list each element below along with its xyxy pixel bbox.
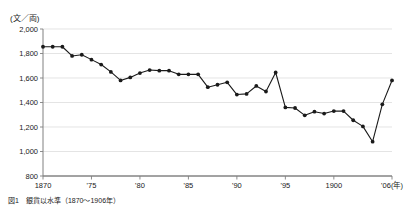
data-point-1905 [380, 102, 384, 106]
data-point-1870 [41, 45, 45, 49]
y-tick-label-1600: 1,600 [19, 74, 38, 83]
gridlines [43, 29, 392, 176]
data-point-1899 [322, 112, 326, 116]
data-point-1879 [128, 75, 132, 79]
data-point-1891 [245, 92, 249, 96]
data-point-1876 [99, 63, 103, 67]
x-tick-label-1880: '80 [135, 181, 145, 190]
y-tick-label-800: 800 [25, 172, 38, 181]
data-point-1897 [303, 113, 307, 117]
data-point-1903 [361, 124, 365, 128]
data-point-1872 [60, 45, 64, 49]
x-tick-label-1885: '85 [184, 181, 194, 190]
x-tick-label-1870: 1870 [35, 181, 52, 190]
data-point-1882 [157, 69, 161, 73]
data-point-1892 [254, 84, 258, 88]
x-tick-label-1895: '95 [280, 181, 290, 190]
data-point-1883 [167, 69, 171, 73]
data-point-1871 [51, 45, 55, 49]
data-point-1887 [206, 85, 210, 89]
x-tick-label-1906: '06(年) [381, 180, 403, 190]
x-tick-label-1875: '75 [87, 181, 97, 190]
data-point-1884 [177, 72, 181, 76]
y-axis-ticks: 8001,0001,2001,4001,6001,8002,000 [19, 25, 43, 181]
data-point-1877 [109, 70, 113, 74]
data-point-1880 [138, 71, 142, 75]
data-point-1889 [225, 80, 229, 84]
series-line [43, 47, 392, 142]
data-point-1881 [148, 68, 152, 72]
data-point-1875 [90, 58, 94, 62]
data-point-1896 [293, 106, 297, 110]
y-tick-label-1400: 1,400 [19, 98, 38, 107]
data-point-1894 [274, 71, 278, 75]
data-point-1902 [351, 118, 355, 122]
data-point-1901 [342, 109, 346, 113]
data-point-1890 [235, 93, 239, 97]
data-series-line [43, 47, 392, 142]
figure-container: (文／両) 8001,0001,2001,4001,6001,8002,000 … [0, 0, 412, 206]
data-point-1886 [196, 72, 200, 76]
data-point-1874 [80, 53, 84, 57]
data-point-1895 [283, 106, 287, 110]
data-point-1900 [332, 109, 336, 113]
data-point-1873 [70, 54, 74, 58]
figure-caption: 図1 銀貨以水準（1870〜1906年） [8, 196, 120, 205]
data-point-1904 [371, 140, 375, 144]
data-point-1888 [216, 83, 220, 87]
x-axis-ticks: 1870'75'80'85'90'951900'06(年) [35, 176, 404, 190]
data-point-1893 [264, 90, 268, 94]
y-tick-label-1000: 1,000 [19, 147, 38, 156]
x-tick-label-1900: 1900 [325, 181, 342, 190]
y-tick-label-1200: 1,200 [19, 123, 38, 132]
y-tick-label-2000: 2,000 [19, 25, 38, 34]
data-point-1906 [390, 79, 394, 83]
line-chart: 8001,0001,2001,4001,6001,8002,000 1870'7… [0, 0, 412, 206]
data-point-1878 [119, 79, 123, 83]
data-point-1898 [313, 110, 317, 114]
y-tick-label-1800: 1,800 [19, 49, 38, 58]
x-tick-label-1890: '90 [232, 181, 242, 190]
data-point-1885 [187, 72, 191, 76]
data-point-markers [41, 45, 394, 144]
